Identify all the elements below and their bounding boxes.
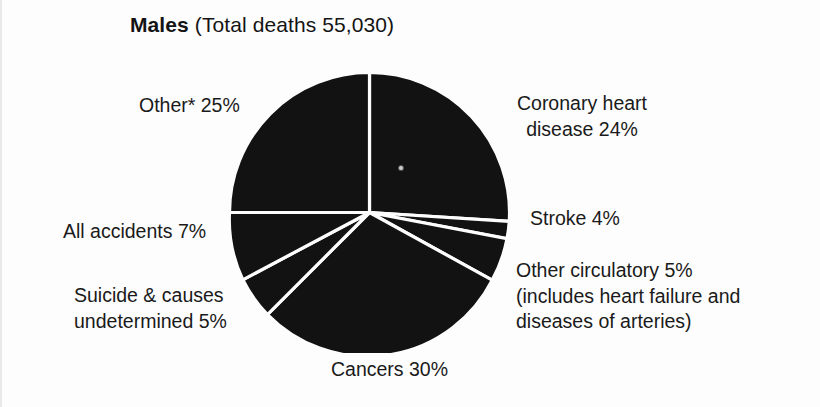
pie-label-other-circulatory: Other circulatory 5% (includes heart fai… [516, 258, 740, 335]
pie-chart [229, 72, 510, 353]
scan-speck-artifact [398, 165, 403, 170]
pie-label-suicide: Suicide & causes undetermined 5% [74, 283, 227, 334]
pie-label-cancers: Cancers 30% [331, 357, 448, 383]
pie-label-all-accidents: All accidents 7% [63, 219, 206, 245]
pie-svg [229, 72, 510, 353]
pie-label-coronary-heart-disease: Coronary heart disease 24% [494, 91, 670, 142]
page-title: Males (Total deaths 55,030) [130, 13, 394, 37]
pie-label-stroke: Stroke 4% [530, 206, 620, 232]
chart-series-name: Males [130, 13, 189, 36]
pie-slice-other[interactable] [230, 73, 370, 213]
chart-page: Males (Total deaths 55,030) Coronary hea… [0, 0, 820, 407]
pie-slice-coronary-heart-disease[interactable] [370, 72, 510, 221]
pie-label-other: Other* 25% [139, 93, 240, 119]
chart-title-detail: (Total deaths 55,030) [195, 13, 394, 36]
